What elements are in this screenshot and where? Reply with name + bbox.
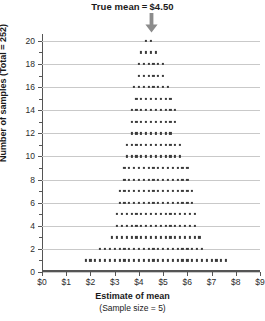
data-point — [155, 121, 157, 123]
data-point — [145, 144, 147, 146]
data-point — [174, 213, 176, 215]
data-point — [116, 213, 118, 215]
y-axis-tick — [38, 110, 42, 111]
data-point — [157, 178, 159, 180]
data-point — [157, 190, 159, 192]
data-point — [181, 190, 183, 192]
data-point — [155, 225, 157, 227]
x-axis-tick — [260, 272, 261, 276]
data-point — [194, 236, 196, 238]
x-axis-tick-label: $9 — [255, 278, 264, 287]
x-axis-tick — [187, 272, 188, 276]
data-point — [123, 167, 125, 169]
data-point — [138, 248, 140, 250]
data-point — [169, 155, 171, 157]
x-axis-tick-label: $4 — [134, 278, 143, 287]
x-axis-tick-label: $3 — [110, 278, 119, 287]
data-point — [94, 259, 96, 261]
data-point — [181, 259, 183, 261]
data-point — [167, 259, 169, 261]
x-axis-tick-label: $8 — [231, 278, 240, 287]
data-point — [138, 202, 140, 204]
data-point — [162, 190, 164, 192]
data-point — [167, 190, 169, 192]
data-point — [150, 40, 152, 42]
data-point — [181, 248, 183, 250]
chart-title-prefix: True mean — [91, 1, 139, 12]
data-point — [174, 144, 176, 146]
data-point — [138, 167, 140, 169]
data-point — [140, 225, 142, 227]
data-point — [169, 109, 171, 111]
data-point — [174, 121, 176, 123]
data-point — [186, 178, 188, 180]
data-point — [169, 98, 171, 100]
y-axis-minor-tick — [39, 260, 42, 261]
data-point — [177, 190, 179, 192]
data-point — [184, 225, 186, 227]
y-axis-minor-tick — [39, 99, 42, 100]
x-axis-tick-label: $5 — [158, 278, 167, 287]
data-point — [123, 248, 125, 250]
data-point — [174, 155, 176, 157]
data-point — [164, 121, 166, 123]
data-point — [179, 155, 181, 157]
data-point — [201, 259, 203, 261]
data-point — [189, 236, 191, 238]
data-point — [135, 109, 137, 111]
data-point — [198, 236, 200, 238]
data-point — [162, 178, 164, 180]
data-point — [189, 213, 191, 215]
data-point — [150, 155, 152, 157]
data-point — [138, 190, 140, 192]
data-point — [169, 236, 171, 238]
data-point — [164, 144, 166, 146]
y-axis-tick-label: 8 — [30, 175, 35, 184]
data-point — [147, 86, 149, 88]
data-point — [138, 259, 140, 261]
data-point — [186, 167, 188, 169]
data-point — [157, 74, 159, 76]
data-point — [169, 213, 171, 215]
data-point — [143, 190, 145, 192]
data-point — [172, 248, 174, 250]
data-point — [133, 259, 135, 261]
data-point — [145, 98, 147, 100]
data-point — [169, 121, 171, 123]
x-axis-tick — [163, 272, 164, 276]
y-axis-minor-tick — [39, 168, 42, 169]
data-point — [157, 86, 159, 88]
data-point — [131, 236, 133, 238]
plot-area: 02468101214161820 $0$1$2$3$4$5$6$7$8$9 — [42, 34, 260, 272]
data-point — [118, 248, 120, 250]
data-point — [121, 213, 123, 215]
data-point — [138, 178, 140, 180]
data-point — [133, 167, 135, 169]
data-point — [167, 202, 169, 204]
data-point — [135, 121, 137, 123]
x-axis-tick-label: $2 — [86, 278, 95, 287]
data-point — [179, 236, 181, 238]
data-point — [164, 155, 166, 157]
chart-title: True mean=$4.50 — [0, 1, 265, 12]
data-point — [160, 109, 162, 111]
data-point — [123, 178, 125, 180]
x-axis-tick-label: $6 — [183, 278, 192, 287]
data-point — [152, 178, 154, 180]
data-point — [155, 155, 157, 157]
data-point — [126, 144, 128, 146]
data-point — [194, 225, 196, 227]
data-point — [155, 109, 157, 111]
data-point — [181, 167, 183, 169]
data-point — [147, 202, 149, 204]
data-point — [145, 40, 147, 42]
data-point — [145, 121, 147, 123]
data-point — [172, 259, 174, 261]
data-point — [150, 144, 152, 146]
data-point — [147, 63, 149, 65]
data-point — [155, 213, 157, 215]
data-point — [143, 86, 145, 88]
data-point — [109, 259, 111, 261]
data-point — [114, 259, 116, 261]
data-point — [152, 248, 154, 250]
